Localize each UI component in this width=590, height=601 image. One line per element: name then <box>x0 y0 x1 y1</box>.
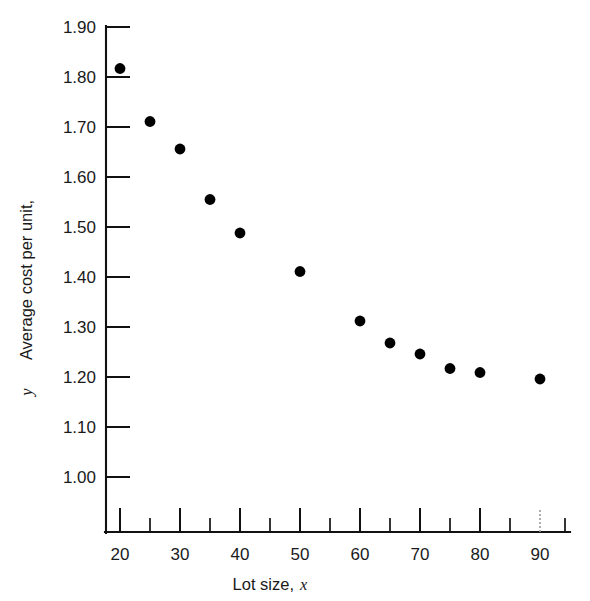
data-point <box>175 144 186 155</box>
y-axis-title-text: Average cost per unit, <box>17 200 35 360</box>
y-tick-label-1.80: 1.80 <box>63 68 96 87</box>
x-tick-label-80: 80 <box>471 545 490 564</box>
y-tick-label-1.40: 1.40 <box>63 268 96 287</box>
x-tick-label-50: 50 <box>291 545 310 564</box>
data-point <box>205 194 216 205</box>
data-point <box>295 266 306 277</box>
x-axis-title-text: Lot size, <box>233 575 294 593</box>
y-tick-label-1.10: 1.10 <box>63 418 96 437</box>
x-tick-label-90: 90 <box>531 545 550 564</box>
y-tick-label-1.90: 1.90 <box>63 18 96 37</box>
x-tick-label-30: 30 <box>171 545 190 564</box>
data-point <box>385 338 396 349</box>
data-point <box>475 367 486 378</box>
x-tick-label-60: 60 <box>351 545 370 564</box>
y-tick-label-1.20: 1.20 <box>63 368 96 387</box>
x-tick-label-70: 70 <box>411 545 430 564</box>
y-tick-label-1.00: 1.00 <box>63 468 96 487</box>
data-point <box>145 116 156 127</box>
data-point <box>355 316 366 327</box>
data-point <box>115 63 126 74</box>
data-point <box>445 363 456 374</box>
x-tick-label-20: 20 <box>111 545 130 564</box>
data-point <box>415 349 426 360</box>
x-tick-label-40: 40 <box>231 545 250 564</box>
data-point <box>235 228 246 239</box>
y-axis-title-variable: y <box>17 388 36 398</box>
y-tick-label-1.50: 1.50 <box>63 218 96 237</box>
data-point <box>535 374 546 385</box>
y-tick-label-1.30: 1.30 <box>63 318 96 337</box>
plot-background <box>0 0 590 601</box>
x-axis-title-variable: x <box>299 575 308 594</box>
scatter-plot-figure: 1.90 1.80 1.70 1.60 1.50 1.40 1.30 1.20 … <box>0 0 590 601</box>
y-tick-label-1.60: 1.60 <box>63 168 96 187</box>
y-tick-label-1.70: 1.70 <box>63 118 96 137</box>
